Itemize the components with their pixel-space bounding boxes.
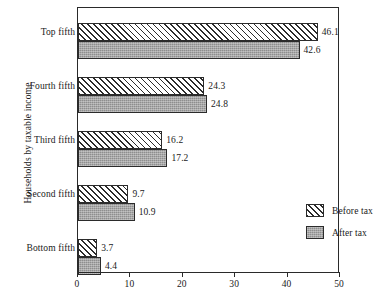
value-label-before-third-fifth: 16.2 — [166, 135, 183, 145]
legend-label-after-tax: After tax — [332, 228, 367, 238]
legend-item-before-tax: Before tax — [306, 201, 377, 220]
bar-before-tax-third-fifth — [78, 131, 162, 149]
bar-after-tax-third-fifth — [78, 149, 167, 167]
y-axis-label-top-fifth: Top fifth — [1, 27, 75, 37]
chart-legend: Before tax After tax — [306, 201, 377, 245]
x-tick-label-0: 0 — [75, 279, 80, 289]
y-axis-label-bottom-fifth: Bottom fifth — [1, 243, 75, 253]
value-label-before-top-fifth: 46.1 — [322, 27, 339, 37]
value-label-after-second-fifth: 10.9 — [139, 207, 156, 217]
x-tick-label-50: 50 — [334, 279, 344, 289]
bar-before-tax-second-fifth — [78, 185, 128, 203]
value-label-before-fourth-fifth: 24.3 — [208, 81, 225, 91]
bar-after-tax-top-fifth — [78, 41, 300, 59]
x-tick-30 — [234, 272, 235, 277]
value-label-before-second-fifth: 9.7 — [132, 189, 144, 199]
y-axis-label-second-fifth: Second fifth — [1, 189, 75, 199]
x-tick-10 — [129, 272, 130, 277]
bar-before-tax-bottom-fifth — [78, 239, 97, 257]
x-tick-50 — [339, 272, 340, 277]
legend-swatch-before-tax-icon — [306, 204, 324, 217]
x-tick-20 — [182, 272, 183, 277]
x-tick-label-10: 10 — [125, 279, 135, 289]
x-tick-40 — [287, 272, 288, 277]
value-label-before-bottom-fifth: 3.7 — [101, 243, 113, 253]
y-axis-label-third-fifth: Third fifth — [1, 135, 75, 145]
bar-after-tax-fourth-fifth — [78, 95, 207, 113]
legend-swatch-after-tax-icon — [306, 226, 324, 239]
x-tick-0 — [77, 272, 78, 277]
y-axis-category-labels: Top fifth Fourth fifth Third fifth Secon… — [0, 0, 75, 299]
legend-item-after-tax: After tax — [306, 223, 377, 242]
x-tick-label-30: 30 — [229, 279, 239, 289]
value-label-after-bottom-fifth: 4.4 — [105, 261, 117, 271]
y-axis-label-fourth-fifth: Fourth fifth — [1, 81, 75, 91]
value-label-after-fourth-fifth: 24.8 — [211, 99, 228, 109]
value-label-after-top-fifth: 42.6 — [304, 45, 321, 55]
x-axis-line — [77, 272, 339, 273]
bar-before-tax-fourth-fifth — [78, 77, 204, 95]
bar-after-tax-second-fifth — [78, 203, 135, 221]
x-tick-label-40: 40 — [282, 279, 292, 289]
legend-label-before-tax: Before tax — [332, 206, 373, 216]
x-tick-label-20: 20 — [177, 279, 187, 289]
plot-area: 46.1 42.6 24.3 24.8 16.2 17.2 9.7 10.9 3… — [77, 7, 339, 272]
bar-before-tax-top-fifth — [78, 23, 318, 41]
value-label-after-third-fifth: 17.2 — [171, 153, 188, 163]
